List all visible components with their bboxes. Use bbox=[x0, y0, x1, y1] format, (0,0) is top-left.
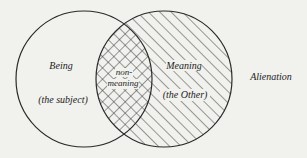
other-sublabel: (the Other) bbox=[163, 90, 208, 100]
non-meaning-label-line2: meaning bbox=[108, 79, 139, 88]
venn-diagram: Being (the subject) Meaning (the Other) … bbox=[0, 0, 307, 158]
being-label: Being bbox=[49, 61, 72, 71]
subject-sublabel: (the subject) bbox=[38, 95, 88, 105]
alienation-label: Alienation bbox=[250, 72, 292, 82]
non-meaning-label-line1: non- bbox=[116, 68, 133, 77]
meaning-label: Meaning bbox=[166, 61, 202, 71]
